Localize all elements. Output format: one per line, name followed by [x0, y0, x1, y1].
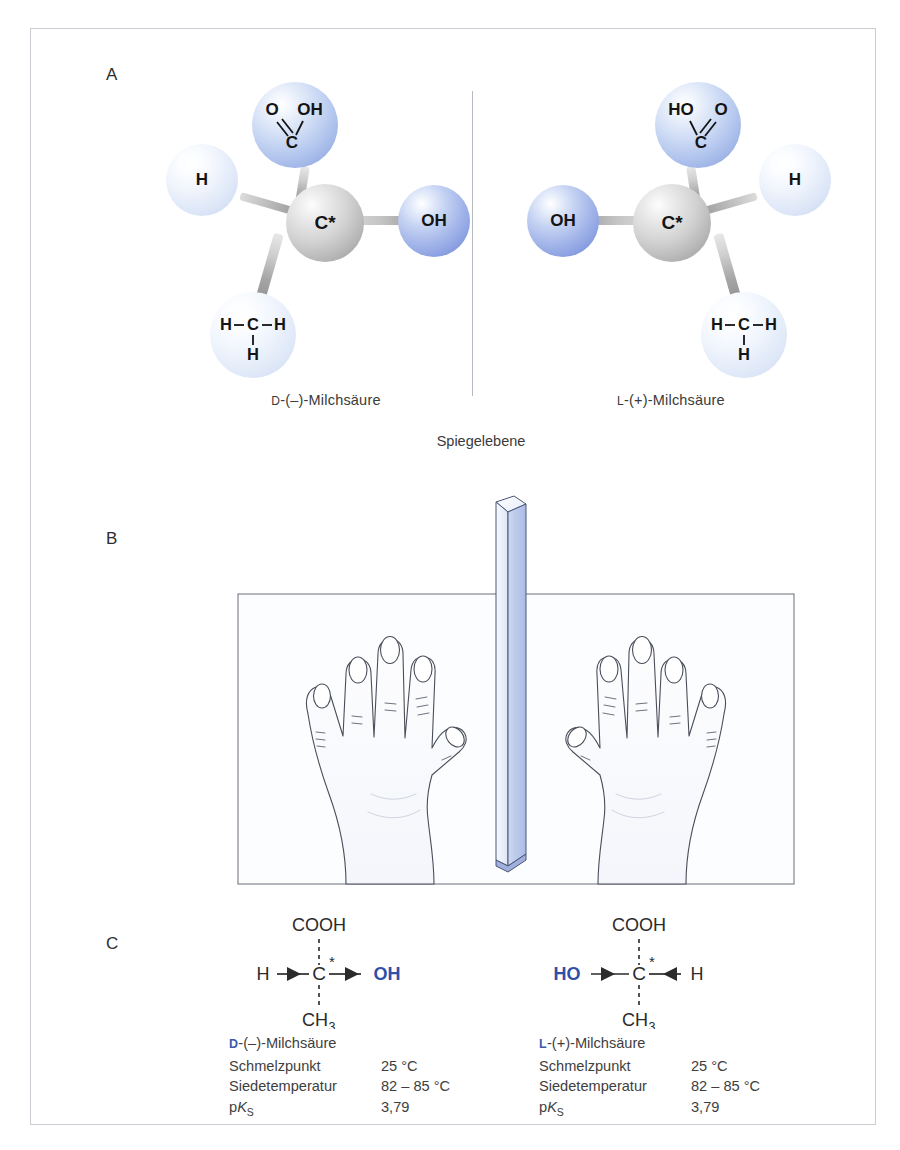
- fischer-d-top-label: COOH: [292, 915, 346, 935]
- pks-p: p: [229, 1099, 237, 1115]
- carboxyl-oh-label: OH: [297, 100, 323, 119]
- methyl-h-right-label: H: [765, 315, 777, 333]
- fischer-l-left-label: HO: [554, 964, 581, 984]
- pks-value: 3,79: [691, 1097, 839, 1122]
- hydrogen-label: H: [789, 171, 801, 189]
- melting-point-value: 25 °C: [691, 1056, 839, 1077]
- carboxyl-o-label: O: [265, 100, 278, 119]
- panel-b-letter: B: [106, 529, 118, 549]
- fischer-projection-l: COOH C * HO H CH 3 L-(+)-Milchsäure: [521, 909, 841, 1149]
- pks-s: S: [557, 1105, 564, 1117]
- property-row-melting-point: Schmelzpunkt 25 °C: [229, 1056, 529, 1077]
- fischer-l-right-label: H: [691, 964, 704, 984]
- property-row-boiling-point: Siedetemperatur 82 – 85 °C: [229, 1076, 529, 1097]
- boiling-point-key: Siedetemperatur: [229, 1076, 381, 1097]
- panel-a-letter: A: [106, 65, 118, 85]
- fischer-d-center-label: C: [312, 963, 326, 984]
- right-middle-nail: [633, 637, 652, 664]
- property-row-melting-point: Schmelzpunkt 25 °C: [539, 1056, 839, 1077]
- methyl-h-left-label: H: [711, 315, 723, 333]
- methyl-c-label: C: [247, 315, 259, 333]
- methyl-c-label: C: [738, 315, 750, 333]
- right-ring-nail: [665, 657, 683, 683]
- hands-mirror-illustration: [196, 494, 836, 894]
- melting-point-value: 25 °C: [381, 1056, 529, 1077]
- chiral-carbon-label: C*: [314, 213, 335, 233]
- fischer-l-right-wedge-arrow: [663, 967, 677, 981]
- chiral-carbon-label: C*: [661, 213, 682, 233]
- methyl-h-bottom-label: H: [738, 345, 750, 363]
- info-block-d: D-(–)-Milchsäure Schmelzpunkt 25 °C Sied…: [229, 1033, 529, 1122]
- panel-c-letter: C: [106, 934, 119, 954]
- atom-group-carboxyl: O OH C: [252, 82, 338, 168]
- left-middle-nail: [381, 637, 400, 664]
- mirror-edge-face: [496, 502, 508, 866]
- fischer-l-center-label: C: [632, 963, 646, 984]
- compound-name-d-prefix: D: [229, 1037, 238, 1051]
- molecule-l-caption: L-(+)-Milchsäure: [471, 392, 871, 408]
- melting-point-key: Schmelzpunkt: [229, 1056, 381, 1077]
- fischer-l-top-label: COOH: [612, 915, 666, 935]
- compound-name-l: L-(+)-Milchsäure: [539, 1033, 839, 1055]
- fischer-l-left-wedge-arrow: [601, 967, 615, 981]
- pks-s: S: [247, 1105, 254, 1117]
- atom-hydrogen: H: [759, 144, 831, 216]
- fischer-d-left-label: H: [257, 964, 270, 984]
- left-ring-nail: [349, 657, 367, 683]
- pks-k: K: [237, 1099, 247, 1115]
- boiling-point-value: 82 – 85 °C: [691, 1076, 839, 1097]
- carboxyl-ho-label: HO: [668, 100, 694, 119]
- figure-frame: A O OH C H: [30, 28, 876, 1125]
- molecule-l-lactic-acid: HO O C H C* OH: [471, 74, 871, 404]
- fischer-l-bottom-label: CH: [622, 1010, 648, 1029]
- property-row-pks: pKS 3,79: [229, 1097, 529, 1122]
- panel-c: C COOH C * H OH CH 3: [31, 909, 900, 1150]
- atom-chiral-carbon: C*: [286, 184, 364, 262]
- panel-a: A O OH C H: [31, 29, 900, 469]
- compound-name-l-rest: -(+)-Milchsäure: [547, 1035, 646, 1051]
- pks-value: 3,79: [381, 1097, 529, 1122]
- atom-group-methyl: H C H H: [701, 292, 787, 378]
- methyl-h-bottom-label: H: [247, 345, 259, 363]
- fischer-d-bottom-label: CH: [302, 1010, 328, 1029]
- compound-name-l-prefix: L: [539, 1037, 547, 1051]
- pks-key: pKS: [539, 1097, 691, 1122]
- hydrogen-label: H: [196, 171, 208, 189]
- info-block-l: L-(+)-Milchsäure Schmelzpunkt 25 °C Sied…: [539, 1033, 839, 1122]
- property-row-boiling-point: Siedetemperatur 82 – 85 °C: [539, 1076, 839, 1097]
- atom-group-methyl: H C H H: [210, 292, 296, 378]
- methyl-h-right-label: H: [274, 315, 286, 333]
- boiling-point-value: 82 – 85 °C: [381, 1076, 529, 1097]
- hydroxyl-label: OH: [550, 212, 576, 230]
- pks-k: K: [547, 1099, 557, 1115]
- melting-point-key: Schmelzpunkt: [539, 1056, 691, 1077]
- mirror-glass-pane: [496, 496, 526, 872]
- right-pinky-nail: [702, 684, 719, 708]
- fischer-projection-d: COOH C * H OH CH 3 D-(–)-Milchsäure: [211, 909, 531, 1149]
- atom-group-hydroxyl: OH: [398, 185, 470, 257]
- molecule-d-caption: D-(–)-Milchsäure: [126, 392, 526, 408]
- fischer-l-bottom-subscript: 3: [649, 1020, 656, 1029]
- property-row-pks: pKS 3,79: [539, 1097, 839, 1122]
- molecule-l-prefix: L: [617, 394, 624, 408]
- fischer-d-right-label: OH: [374, 964, 401, 984]
- right-index-nail: [600, 656, 618, 682]
- fischer-structure-d: COOH C * H OH CH 3: [211, 909, 471, 1029]
- left-index-nail: [414, 656, 432, 682]
- carboxyl-o-label: O: [714, 100, 727, 119]
- compound-name-d: D-(–)-Milchsäure: [229, 1033, 529, 1055]
- fischer-l-chiral-star: *: [649, 953, 655, 970]
- atom-chiral-carbon: C*: [633, 184, 711, 262]
- fischer-d-chiral-star: *: [329, 953, 335, 970]
- fischer-structure-l: COOH C * HO H CH 3: [521, 909, 781, 1029]
- fischer-d-right-wedge-arrow: [345, 967, 359, 981]
- molecule-d-lactic-acid: O OH C H C* OH: [126, 74, 526, 404]
- mirror-plane-label: Spiegelebene: [31, 433, 900, 449]
- atom-hydrogen: H: [166, 144, 238, 216]
- pks-key: pKS: [229, 1097, 381, 1122]
- left-pinky-nail: [314, 684, 331, 708]
- methyl-h-left-label: H: [220, 315, 232, 333]
- fischer-d-left-wedge-arrow: [287, 967, 301, 981]
- pks-p: p: [539, 1099, 547, 1115]
- panel-b: B: [31, 499, 900, 909]
